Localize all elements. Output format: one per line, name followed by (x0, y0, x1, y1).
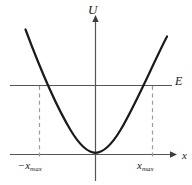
left-turning-point-subscript: max (30, 165, 42, 172)
figure-canvas (0, 0, 192, 185)
energy-line-label: E (175, 75, 182, 87)
u-axis-label: U (88, 3, 97, 16)
right-turning-point-label: xmax (137, 160, 154, 173)
right-turning-point-subscript: max (142, 165, 154, 172)
potential-energy-parabola (26, 30, 168, 153)
u-axis (92, 15, 98, 181)
left-turning-point-label: −xmax (18, 160, 42, 173)
arrow-right-icon (170, 151, 177, 157)
potential-energy-figure: U E x −xmax xmax (0, 0, 192, 185)
x-axis-label: x (182, 150, 187, 161)
